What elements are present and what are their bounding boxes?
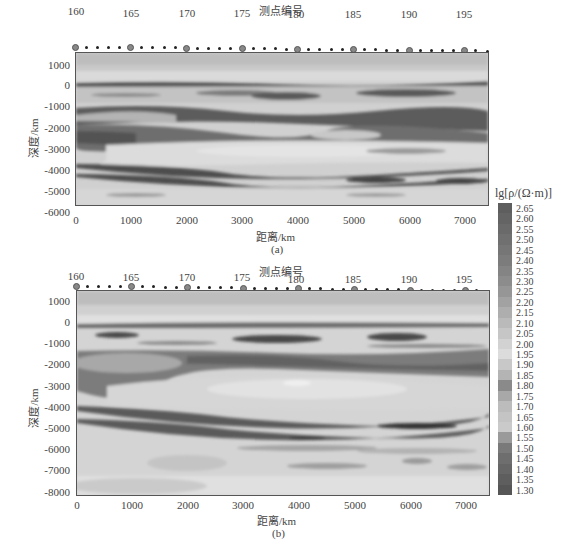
- station-marker: [164, 286, 167, 289]
- x-tick-label: 2000: [167, 214, 207, 226]
- x-tick-label: 1000: [111, 214, 151, 226]
- x-axis-title-a: 距离/km: [256, 228, 295, 244]
- station-marker: [151, 46, 154, 49]
- station-marker: [163, 46, 166, 49]
- station-label: 190: [394, 8, 424, 20]
- colorbar-tick-label: 2.05: [516, 329, 534, 339]
- station-marker: [119, 285, 122, 288]
- colorbar-tick-label: 1.35: [516, 475, 534, 485]
- station-marker: [107, 46, 110, 49]
- colorbar-labels: 2.652.602.552.502.452.402.352.302.252.20…: [498, 203, 558, 495]
- x-axis-title-b: 距离/km: [257, 512, 296, 528]
- x-tick-label: 4000: [279, 499, 319, 511]
- colorbar-tick-label: 1.55: [516, 433, 534, 443]
- y-tick-label: 0: [30, 79, 70, 91]
- colorbar-tick-label: 2.40: [516, 256, 534, 266]
- station-marker: [175, 286, 178, 289]
- y-axis-title-b: 深度/km: [25, 383, 41, 433]
- station-label: 160: [61, 270, 91, 282]
- station-label: 160: [61, 5, 91, 17]
- station-marker: [341, 48, 344, 51]
- station-marker: [230, 286, 233, 289]
- station-marker: [197, 286, 200, 289]
- colorbar-tick-label: 1.45: [516, 454, 534, 464]
- station-label: 190: [394, 273, 424, 285]
- station-marker: [274, 47, 277, 50]
- station-marker: [330, 48, 333, 51]
- x-tick-label: 3000: [223, 499, 263, 511]
- station-marker: [152, 285, 155, 288]
- x-tick-label: 0: [56, 214, 96, 226]
- resistivity-section-a: [75, 52, 489, 206]
- station-marker: [307, 48, 310, 51]
- station-marker: [72, 44, 79, 51]
- colorbar-tick-label: 2.50: [516, 235, 534, 245]
- colorbar-tick-label: 1.30: [516, 486, 534, 496]
- station-label: 195: [449, 273, 479, 285]
- station-marker: [86, 285, 89, 288]
- y-tick-label: 0: [30, 316, 70, 328]
- resistivity-section-b: [76, 290, 490, 496]
- caption-b: (b): [272, 527, 285, 539]
- y-tick-label: 1000: [30, 295, 70, 307]
- y-tick-label: -6000: [30, 443, 70, 455]
- station-marker: [374, 48, 377, 51]
- y-axis-title-a: 深度/km: [25, 113, 41, 163]
- station-marker: [219, 286, 222, 289]
- x-tick-label: 5000: [334, 214, 374, 226]
- station-label: 180: [281, 273, 311, 285]
- colorbar-tick-label: 2.25: [516, 287, 534, 297]
- heatmap-b: [77, 291, 489, 495]
- station-label: 175: [227, 7, 257, 19]
- station-label: 165: [116, 271, 146, 283]
- station-marker: [196, 47, 199, 50]
- station-marker: [218, 47, 221, 50]
- colorbar-title: lg[ρ/(Ω·m)]: [495, 186, 552, 201]
- y-tick-label: -8000: [30, 486, 70, 498]
- colorbar-tick-label: 2.15: [516, 308, 534, 318]
- station-label: 195: [449, 8, 479, 20]
- station-marker: [207, 47, 210, 50]
- y-tick-label: -1000: [30, 100, 70, 112]
- y-tick-label: -7000: [30, 464, 70, 476]
- x-tick-label: 5000: [335, 499, 375, 511]
- station-marker: [73, 283, 80, 290]
- x-tick-label: 6000: [390, 214, 430, 226]
- station-marker: [318, 48, 321, 51]
- x-tick-label: 7000: [446, 499, 486, 511]
- x-tick-label: 3000: [222, 214, 262, 226]
- colorbar-tick-label: 1.70: [516, 402, 534, 412]
- station-label: 165: [116, 7, 146, 19]
- x-tick-label: 4000: [278, 214, 318, 226]
- x-tick-label: 6000: [391, 499, 431, 511]
- station-marker: [96, 46, 99, 49]
- y-tick-label: 1000: [30, 59, 70, 71]
- station-marker: [85, 46, 88, 49]
- station-label: 185: [338, 273, 368, 285]
- station-marker: [97, 285, 100, 288]
- x-tick-label: 7000: [445, 214, 485, 226]
- station-marker: [363, 48, 366, 51]
- caption-a: (a): [271, 243, 283, 255]
- y-tick-label: -1000: [30, 337, 70, 349]
- station-label: 185: [338, 8, 368, 20]
- colorbar-tick-label: 1.90: [516, 360, 534, 370]
- x-tick-label: 1000: [112, 499, 152, 511]
- station-marker: [127, 44, 134, 51]
- station-label: 175: [227, 271, 257, 283]
- station-marker: [208, 286, 211, 289]
- y-tick-label: -2000: [30, 358, 70, 370]
- station-marker: [285, 48, 288, 51]
- station-marker: [108, 285, 111, 288]
- colorbar-tick-label: 2.60: [516, 214, 534, 224]
- station-label: 180: [281, 8, 311, 20]
- y-tick-label: -4000: [30, 164, 70, 176]
- colorbar-tick-label: 1.80: [516, 381, 534, 391]
- x-tick-label: 0: [57, 499, 97, 511]
- station-marker: [252, 47, 255, 50]
- station-marker: [140, 46, 143, 49]
- y-tick-label: -5000: [30, 185, 70, 197]
- station-label: 170: [172, 7, 202, 19]
- station-marker: [174, 46, 177, 49]
- station-marker: [229, 47, 232, 50]
